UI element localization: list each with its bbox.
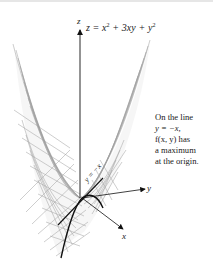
note-line-1: On the line	[155, 112, 213, 123]
equation-label: z = x2 + 3xy + y2	[86, 22, 156, 33]
equation-mid: + 3xy + y	[110, 22, 153, 33]
note-line-2: y = −x,	[155, 123, 213, 134]
surface-shading	[14, 42, 150, 258]
note-line-4: a maximum	[155, 145, 213, 156]
y-axis-label: y	[147, 184, 151, 193]
note-line-5: at the origin.	[155, 156, 213, 167]
note-line-3: f(x, y) has	[155, 134, 213, 145]
equation-lhs: z = x	[86, 22, 107, 33]
equation-exponent-2: 2	[153, 22, 156, 28]
z-axis-label: z	[77, 17, 81, 26]
x-axis-label: x	[122, 232, 126, 241]
annotation-text: On the line y = −x, f(x, y) has a maximu…	[155, 112, 213, 167]
